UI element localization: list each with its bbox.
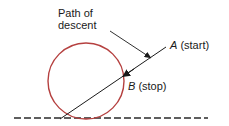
path-of-descent-label: Path of descent <box>58 7 97 31</box>
leader-line <box>110 31 151 58</box>
diagram-svg <box>0 0 229 126</box>
point-a-text: (start) <box>177 39 209 51</box>
diagram-canvas: Path of descent A (start) B (stop) <box>0 0 229 126</box>
path-label-line2: descent <box>58 19 97 31</box>
point-b-label: B (stop) <box>128 80 167 92</box>
ball-circle <box>48 43 124 119</box>
point-b-text: (stop) <box>135 80 166 92</box>
point-a-label: A (start) <box>170 39 209 51</box>
path-label-line1: Path of <box>58 7 97 19</box>
descent-arrow-icon <box>123 69 134 77</box>
